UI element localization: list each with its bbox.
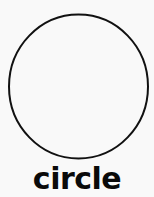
- shape-flashcard: circle: [0, 0, 154, 197]
- shape-label: circle: [0, 163, 154, 195]
